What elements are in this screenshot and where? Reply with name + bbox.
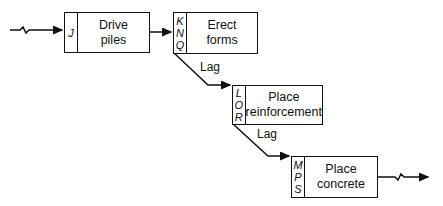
activity-code: K — [176, 15, 183, 27]
activity-codes: L O R — [233, 86, 246, 124]
activity-label: Place concrete — [305, 157, 377, 197]
activity-label: Place reinforcement — [246, 86, 322, 124]
activity-code: S — [294, 183, 301, 195]
activity-place-reinforcement: L O R Place reinforcement — [232, 85, 323, 125]
activity-codes: M P S — [292, 157, 305, 197]
activity-code: N — [176, 27, 184, 39]
start-arrow — [10, 27, 62, 33]
activity-place-concrete: M P S Place concrete — [291, 156, 378, 198]
activity-code: O — [235, 99, 244, 111]
lag-label-1: Lag — [200, 60, 220, 74]
activity-code: P — [294, 171, 301, 183]
activity-label: Erect forms — [187, 13, 257, 53]
activity-code: R — [235, 111, 243, 123]
activity-erect-forms: K N Q Erect forms — [173, 12, 258, 54]
activity-code: M — [293, 159, 302, 171]
activity-drive-piles: J Drive piles — [64, 12, 150, 53]
activity-codes: K N Q — [174, 13, 187, 53]
lag-label-2: Lag — [257, 127, 277, 141]
activity-code: J — [68, 27, 74, 39]
end-arrow — [377, 174, 428, 180]
activity-codes: J — [65, 13, 78, 52]
activity-code: L — [236, 87, 242, 99]
activity-code: Q — [176, 39, 185, 51]
activity-label: Drive piles — [78, 13, 149, 52]
